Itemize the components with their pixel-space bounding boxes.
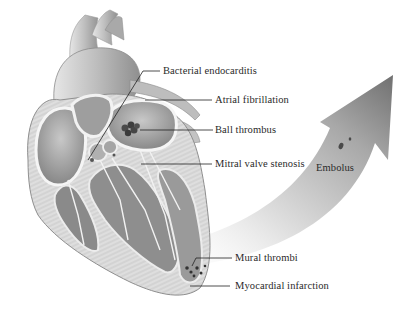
label-atrial-fibrillation: Atrial fibrillation (215, 94, 289, 106)
label-mitral-valve-stenosis: Mitral valve stenosis (215, 158, 305, 170)
label-bacterial-endocarditis: Bacterial endocarditis (163, 65, 257, 77)
label-mural-thrombi: Mural thrombi (235, 252, 298, 264)
label-ball-thrombus: Ball thrombus (215, 124, 276, 136)
embolus-particle-icon (349, 137, 352, 141)
heart-illustration (0, 0, 416, 313)
embolism-diagram: Bacterial endocarditis Atrial fibrillati… (0, 0, 416, 313)
left-atrium (107, 101, 176, 151)
label-myocardial-infarction: Myocardial infarction (235, 280, 329, 292)
label-embolus: Embolus (316, 162, 354, 174)
